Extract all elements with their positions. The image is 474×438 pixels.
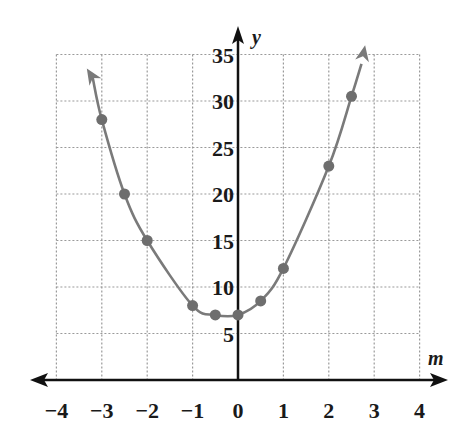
x-tick-label: −3	[90, 398, 114, 423]
x-axis-label: m	[428, 347, 444, 369]
x-tick-label: 3	[369, 398, 380, 423]
y-tick-label: 35	[212, 43, 234, 68]
data-point	[119, 189, 130, 200]
data-point	[323, 161, 334, 172]
y-tick-label: 10	[212, 275, 234, 300]
y-tick-labels: 5101520253035	[212, 43, 234, 347]
data-point	[210, 309, 221, 320]
x-tick-label: −1	[181, 398, 205, 423]
y-tick-label: 25	[212, 136, 234, 161]
data-point	[187, 300, 198, 311]
data-point	[233, 309, 244, 320]
x-tick-label: 1	[278, 398, 289, 423]
x-tick-label: −2	[135, 398, 159, 423]
curve-right-arrow-icon	[355, 45, 369, 62]
x-tick-label: 4	[414, 398, 425, 423]
y-tick-label: 5	[223, 322, 234, 347]
data-point	[96, 114, 107, 125]
x-tick-labels: −4−3−2−101234	[45, 398, 425, 423]
x-tick-label: −4	[45, 398, 69, 423]
data-point	[142, 235, 153, 246]
parabola-chart: −4−3−2−101234 5101520253035 y m	[0, 0, 474, 438]
data-point	[255, 295, 266, 306]
y-axis-label: y	[250, 26, 261, 49]
y-tick-label: 30	[212, 89, 234, 114]
data-point	[346, 91, 357, 102]
y-tick-label: 20	[212, 182, 234, 207]
data-point	[278, 263, 289, 274]
y-tick-label: 15	[212, 229, 234, 254]
x-tick-label: 2	[323, 398, 334, 423]
x-tick-label: 0	[233, 398, 244, 423]
